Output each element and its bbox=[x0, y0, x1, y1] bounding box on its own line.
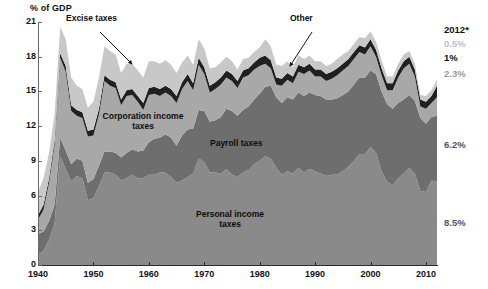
x-tick-label-2010: 2010 bbox=[416, 270, 436, 279]
y-tick-mark-15 bbox=[38, 91, 42, 92]
x-tick-mark-1980 bbox=[260, 262, 261, 266]
annotation-personal-income-taxes: Personal income taxes bbox=[184, 210, 276, 229]
x-tick-mark-1950 bbox=[93, 262, 94, 266]
y-tick-label-3: 3 bbox=[18, 225, 36, 234]
annotation-corporation-income-taxes: Corporation income taxes bbox=[95, 112, 191, 131]
x-tick-mark-1960 bbox=[149, 262, 150, 266]
x-tick-label-1970: 1970 bbox=[194, 270, 214, 279]
y-tick-mark-0 bbox=[38, 265, 42, 266]
y-tick-label-6: 6 bbox=[18, 191, 36, 200]
x-tick-mark-2010 bbox=[426, 262, 427, 266]
side-label-other-value: 1% bbox=[444, 53, 458, 63]
side-label-personal-value: 8.5% bbox=[444, 218, 466, 228]
y-tick-label-9: 9 bbox=[18, 156, 36, 165]
side-label-excise-value: 0.5% bbox=[444, 39, 466, 49]
y-tick-mark-12 bbox=[38, 126, 42, 127]
x-tick-mark-2000 bbox=[371, 262, 372, 266]
y-tick-mark-21 bbox=[38, 22, 42, 23]
x-axis-line bbox=[38, 265, 438, 266]
x-tick-mark-1990 bbox=[315, 262, 316, 266]
x-tick-label-1990: 1990 bbox=[305, 270, 325, 279]
x-tick-label-1980: 1980 bbox=[250, 270, 270, 279]
x-tick-label-1950: 1950 bbox=[83, 270, 103, 279]
chart-root: % of GDP 036912151821 194019501960197019… bbox=[0, 0, 488, 289]
side-label-corporation-value: 2.3% bbox=[444, 69, 466, 79]
x-tick-label-1960: 1960 bbox=[139, 270, 159, 279]
y-tick-mark-9 bbox=[38, 161, 42, 162]
annotation-personal-line2: taxes bbox=[184, 220, 276, 230]
y-tick-label-18: 18 bbox=[18, 52, 36, 61]
x-tick-label-1940: 1940 bbox=[28, 270, 48, 279]
y-tick-mark-3 bbox=[38, 230, 42, 231]
y-tick-label-21: 21 bbox=[18, 17, 36, 26]
annotation-corporation-line2: taxes bbox=[95, 122, 191, 132]
y-axis-title: % of GDP bbox=[30, 3, 72, 13]
side-label-year-header: 2012* bbox=[444, 25, 469, 35]
y-tick-mark-18 bbox=[38, 57, 42, 58]
x-tick-label-2000: 2000 bbox=[360, 270, 380, 279]
y-tick-label-0: 0 bbox=[18, 260, 36, 269]
side-label-payroll-value: 6.2% bbox=[444, 140, 466, 150]
x-tick-mark-1970 bbox=[204, 262, 205, 266]
annotation-other: Other bbox=[290, 14, 313, 24]
annotation-payroll-taxes: Payroll taxes bbox=[210, 139, 262, 149]
y-tick-label-15: 15 bbox=[18, 86, 36, 95]
y-tick-label-12: 12 bbox=[18, 121, 36, 130]
y-tick-mark-6 bbox=[38, 196, 42, 197]
annotation-excise-taxes: Excise taxes bbox=[66, 14, 117, 24]
